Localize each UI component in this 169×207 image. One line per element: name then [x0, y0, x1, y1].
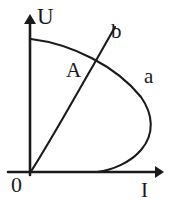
origin-label: 0: [11, 174, 22, 196]
axis-label-i: I: [141, 180, 148, 201]
curve-a: [31, 39, 151, 172]
right-arrow-icon: [155, 166, 164, 178]
curve-label-a: a: [144, 66, 153, 87]
up-arrow-icon: [24, 14, 36, 24]
diagram-canvas: [0, 0, 169, 207]
curve-label-b: b: [111, 21, 122, 42]
figure-container: U I 0 A a b: [0, 0, 169, 207]
point-label-a-intersection: A: [66, 60, 81, 81]
axis-label-u: U: [37, 5, 54, 28]
